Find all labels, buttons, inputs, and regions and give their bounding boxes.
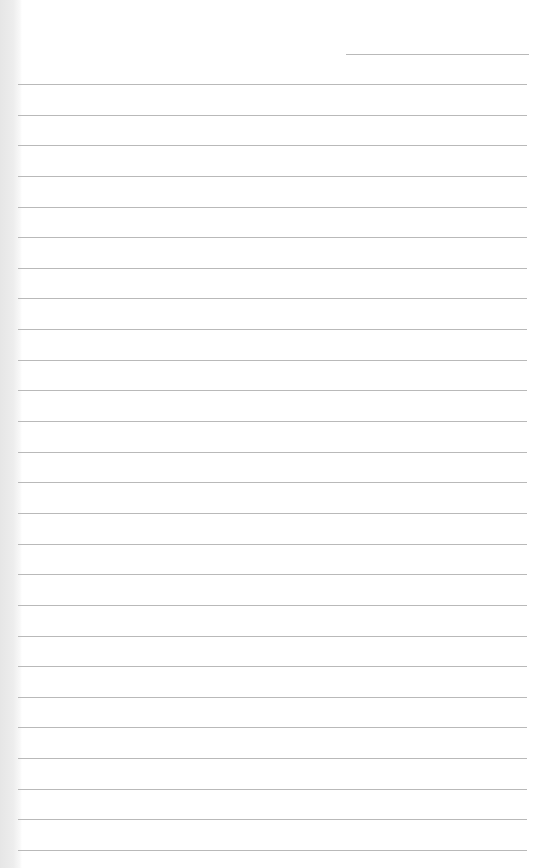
ruled-line bbox=[18, 145, 527, 146]
ruled-line bbox=[18, 574, 527, 575]
ruled-line bbox=[18, 727, 527, 728]
header-line bbox=[346, 54, 529, 55]
ruled-line bbox=[18, 176, 527, 177]
ruled-line bbox=[18, 452, 527, 453]
ruled-line bbox=[18, 421, 527, 422]
ruled-line bbox=[18, 115, 527, 116]
ruled-line bbox=[18, 207, 527, 208]
ruled-line bbox=[18, 360, 527, 361]
ruled-line bbox=[18, 666, 527, 667]
ruled-line bbox=[18, 84, 527, 85]
ruled-line bbox=[18, 758, 527, 759]
ruled-line bbox=[18, 268, 527, 269]
ruled-line bbox=[18, 298, 527, 299]
ruled-line bbox=[18, 789, 527, 790]
left-margin-shadow bbox=[0, 0, 22, 868]
ruled-line bbox=[18, 636, 527, 637]
ruled-line bbox=[18, 513, 527, 514]
ruled-line bbox=[18, 819, 527, 820]
ruled-line bbox=[18, 329, 527, 330]
ruled-line bbox=[18, 544, 527, 545]
ruled-line bbox=[18, 482, 527, 483]
ruled-line bbox=[18, 697, 527, 698]
ruled-line bbox=[18, 850, 527, 851]
ruled-line bbox=[18, 390, 527, 391]
ruled-line bbox=[18, 237, 527, 238]
ruled-line bbox=[18, 605, 527, 606]
